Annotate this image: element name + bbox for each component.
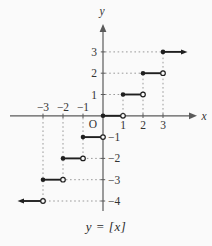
x-tick-label: −1 (77, 101, 89, 113)
x-tick-label: 3 (160, 119, 166, 131)
x-tick-label: −3 (37, 101, 49, 113)
floor-function-graph: xyO−3−2−1123123−1−2−3−4 (0, 0, 212, 246)
y-tick-label: −1 (108, 131, 120, 143)
y-axis-label: y (98, 5, 105, 18)
x-axis-arrow (189, 112, 197, 119)
y-tick-label: −3 (108, 174, 120, 186)
open-endpoint (41, 199, 46, 204)
y-tick-label: 1 (91, 89, 97, 101)
x-tick-label: −2 (57, 101, 69, 113)
open-endpoint (161, 71, 166, 76)
x-axis-label: x (200, 110, 207, 122)
closed-endpoint (101, 114, 106, 119)
y-tick-label: 2 (91, 67, 97, 79)
open-endpoint (61, 177, 66, 182)
closed-endpoint (121, 92, 126, 97)
open-endpoint (101, 135, 106, 140)
closed-endpoint (61, 156, 66, 161)
open-endpoint (141, 92, 146, 97)
x-tick-label: 1 (120, 119, 126, 131)
figure-caption: y = [x] (0, 219, 212, 235)
closed-endpoint (81, 135, 86, 140)
open-endpoint (121, 114, 126, 119)
closed-endpoint (161, 50, 166, 55)
y-tick-label: −2 (108, 152, 120, 164)
closed-endpoint (141, 71, 146, 76)
segment-arrow-left (18, 199, 25, 204)
closed-endpoint (41, 177, 46, 182)
origin-label: O (89, 118, 97, 130)
y-tick-label: −4 (108, 195, 120, 207)
segment-arrow-right (181, 49, 188, 54)
y-axis-arrow (100, 24, 107, 32)
floor-function-figure: xyO−3−2−1123123−1−2−3−4 y = [x] (0, 0, 212, 246)
open-endpoint (81, 156, 86, 161)
x-tick-label: 2 (140, 119, 146, 131)
y-tick-label: 3 (91, 46, 97, 58)
